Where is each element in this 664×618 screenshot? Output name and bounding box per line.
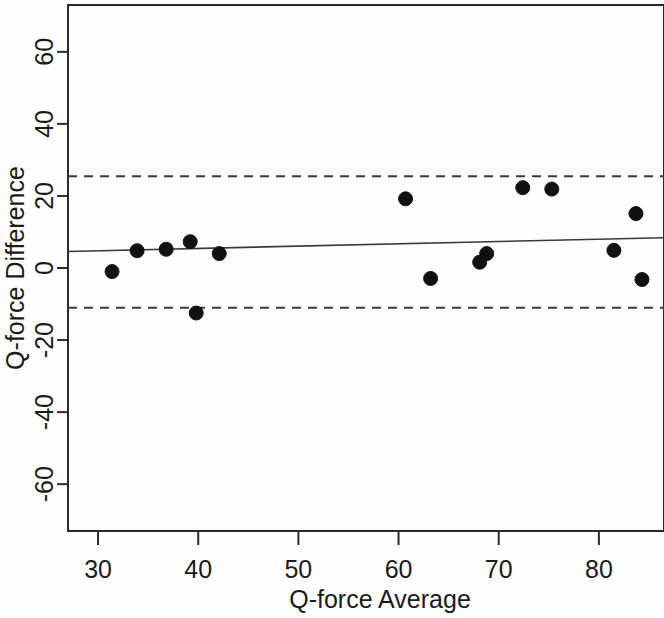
bland-altman-plot: -60-40-200204060 304050607080 Q-force Di… (0, 0, 664, 618)
x-tick-label: 30 (84, 555, 112, 583)
data-point (607, 243, 621, 257)
y-axis-title: Q-force Difference (1, 166, 29, 370)
chart-canvas: -60-40-200204060 304050607080 Q-force Di… (0, 0, 664, 618)
data-point (424, 271, 438, 285)
y-tick-label: -60 (30, 466, 58, 502)
data-point (130, 244, 144, 258)
plot-frame (68, 5, 664, 531)
bias-regression-line (68, 238, 664, 252)
y-axis: -60-40-200204060 (30, 38, 68, 502)
y-tick-label: 20 (30, 182, 58, 210)
x-tick-label: 70 (485, 555, 513, 583)
y-tick-label: -20 (30, 322, 58, 358)
trend-line (68, 238, 664, 252)
y-tick-label: -40 (30, 394, 58, 430)
data-point (516, 181, 530, 195)
data-point (635, 273, 649, 287)
x-tick-label: 40 (184, 555, 212, 583)
data-point (545, 182, 559, 196)
data-point (189, 306, 203, 320)
y-tick-label: 0 (30, 261, 58, 275)
data-point (399, 192, 413, 206)
limit-of-agreement-lines (68, 176, 664, 307)
data-point (159, 242, 173, 256)
y-tick-label: 40 (30, 110, 58, 138)
data-point (480, 247, 494, 261)
data-points (105, 181, 649, 320)
y-tick-label: 60 (30, 38, 58, 66)
data-point (183, 235, 197, 249)
x-tick-label: 50 (284, 555, 312, 583)
x-tick-label: 80 (585, 555, 613, 583)
data-point (105, 265, 119, 279)
x-axis: 304050607080 (84, 531, 613, 583)
data-point (629, 207, 643, 221)
x-axis-title: Q-force Average (289, 585, 471, 613)
data-point (212, 247, 226, 261)
x-tick-label: 60 (385, 555, 413, 583)
